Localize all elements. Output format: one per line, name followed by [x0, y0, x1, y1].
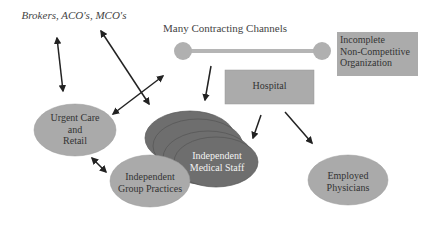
urgent-care-line-3: Retail: [34, 135, 116, 147]
independent-medical-label: Independent Medical Staff: [176, 150, 258, 173]
urgent-care-label: Urgent Care and Retail: [34, 112, 116, 147]
independent-medical-line-1: Independent: [176, 150, 258, 162]
hospital-label: Hospital: [225, 80, 314, 92]
independent-group-label: Independent Group Practices: [108, 171, 192, 194]
incomplete-label: Incomplete Non-Competitive Organization: [340, 34, 420, 69]
incomplete-line-2: Non-Competitive: [340, 46, 420, 58]
incomplete-line-1: Incomplete: [340, 34, 420, 46]
employed-line-1: Employed: [308, 170, 388, 182]
employed-line-2: Physicians: [308, 182, 388, 194]
employed-label: Employed Physicians: [308, 170, 388, 193]
urgent-care-line-2: and: [34, 124, 116, 136]
contracting-channel-connector: [174, 42, 331, 60]
independent-group-line-2: Group Practices: [108, 183, 192, 195]
channels-label: Many Contracting Channels: [150, 22, 300, 35]
independent-group-line-1: Independent: [108, 171, 192, 183]
urgent-care-line-1: Urgent Care: [34, 112, 116, 124]
brokers-label: Brokers, ACO's, MCO's: [18, 9, 130, 22]
incomplete-line-3: Organization: [340, 57, 420, 69]
